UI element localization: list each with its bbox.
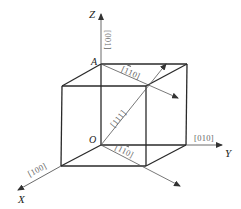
y-axis-label: Y bbox=[225, 147, 231, 159]
vector-110-top bbox=[101, 64, 178, 98]
crystal-cube-diagram: Z Y X A O [001] [010] [100] [111] [110] … bbox=[0, 0, 241, 209]
direction-001-label: [001] bbox=[103, 30, 113, 50]
x-axis-label: X bbox=[18, 193, 25, 205]
z-axis-label: Z bbox=[89, 8, 95, 20]
direction-010-label: [010] bbox=[194, 133, 214, 143]
point-o-label: O bbox=[89, 134, 96, 145]
point-a-label: A bbox=[91, 56, 97, 67]
cube-drawing bbox=[0, 0, 241, 209]
axes bbox=[18, 14, 222, 190]
